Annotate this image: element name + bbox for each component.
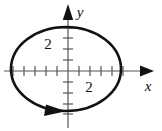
y-axis-arrowhead-icon bbox=[63, 4, 73, 20]
x-tick-label-2: 2 bbox=[85, 79, 93, 95]
x-axis-label: x bbox=[144, 78, 152, 94]
y-tick-label-2: 2 bbox=[44, 36, 52, 52]
orientation-arrowhead-icon bbox=[44, 105, 66, 117]
ellipse-plot-svg: 2 2 y x bbox=[0, 0, 162, 131]
y-axis-label: y bbox=[75, 4, 84, 20]
figure-container: 2 2 y x bbox=[0, 0, 162, 131]
ellipse-curve bbox=[11, 27, 121, 111]
x-axis-arrowhead-icon bbox=[140, 66, 154, 77]
